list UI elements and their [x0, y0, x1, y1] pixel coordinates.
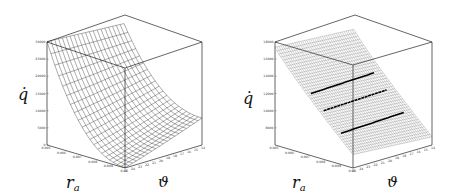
svg-text:14000: 14000: [263, 74, 273, 78]
right-bounding-box: [275, 15, 432, 168]
svg-text:20000: 20000: [35, 74, 45, 78]
left-plot: 050001000015000200002500030000 0.0050.00…: [18, 15, 205, 193]
svg-text:0.009: 0.009: [104, 164, 113, 168]
svg-text:12000: 12000: [263, 92, 273, 96]
svg-text:30000: 30000: [35, 40, 45, 44]
svg-text:0.005: 0.005: [41, 146, 50, 150]
svg-text:15000: 15000: [35, 92, 45, 96]
svg-text:18000: 18000: [263, 40, 273, 44]
figure: 050001000015000200002500030000 0.0050.00…: [0, 0, 451, 194]
svg-text:15: 15: [194, 148, 198, 152]
svg-text:24: 24: [359, 167, 363, 171]
svg-text:22: 22: [145, 163, 149, 167]
left-surface-mesh: [47, 24, 202, 168]
svg-text:10000: 10000: [35, 109, 45, 113]
right-surface-mesh: [275, 29, 432, 154]
right-plot: 80001000012000140001600018000 0.0050.006…: [243, 15, 435, 193]
svg-text:19: 19: [395, 156, 399, 160]
svg-text:21: 21: [152, 161, 156, 165]
svg-text:14: 14: [201, 146, 205, 150]
svg-text:0.005: 0.005: [269, 146, 278, 150]
left-z-label: q̇: [18, 85, 28, 104]
svg-text:20: 20: [159, 159, 163, 163]
svg-text:10000: 10000: [263, 109, 273, 113]
svg-text:24: 24: [131, 167, 135, 171]
svg-text:0.007: 0.007: [301, 155, 310, 159]
svg-text:14: 14: [431, 146, 435, 150]
svg-text:20: 20: [388, 159, 392, 163]
svg-text:25: 25: [124, 169, 128, 173]
svg-text:22: 22: [374, 163, 378, 167]
right-z-label: q̇: [243, 89, 253, 108]
left-bounding-box: [47, 15, 202, 168]
svg-text:0.006: 0.006: [285, 151, 294, 155]
svg-text:17: 17: [409, 152, 413, 156]
right-ra-ticks: 0.0050.0060.0070.0080.0090.01: [269, 146, 355, 173]
left-ra-label: ra: [66, 173, 80, 193]
svg-text:0.007: 0.007: [73, 155, 82, 159]
svg-text:18: 18: [173, 154, 177, 158]
svg-text:19: 19: [166, 156, 170, 160]
right-ra-label: ra: [292, 173, 306, 193]
svg-text:25000: 25000: [35, 57, 45, 61]
svg-text:5000: 5000: [37, 126, 45, 130]
svg-text:15: 15: [424, 148, 428, 152]
svg-text:16000: 16000: [263, 57, 273, 61]
svg-text:0.009: 0.009: [332, 164, 341, 168]
svg-text:8000: 8000: [265, 126, 273, 130]
svg-text:0.008: 0.008: [88, 160, 97, 164]
svg-text:18: 18: [402, 154, 406, 158]
svg-text:21: 21: [381, 161, 385, 165]
svg-text:25: 25: [352, 169, 356, 173]
svg-text:23: 23: [138, 165, 142, 169]
svg-text:17: 17: [180, 152, 184, 156]
left-theta-ticks: 252423222120191817161514: [124, 146, 205, 173]
svg-text:23: 23: [366, 165, 370, 169]
right-z-ticks: 80001000012000140001600018000: [263, 40, 276, 130]
svg-text:16: 16: [187, 150, 191, 154]
left-ra-ticks: 0.0050.0060.0070.0080.0090.01: [41, 146, 127, 173]
left-theta-label: ϑ: [158, 173, 169, 191]
svg-text:0.006: 0.006: [57, 151, 66, 155]
svg-text:0.008: 0.008: [316, 160, 325, 164]
right-theta-ticks: 252423222120191817161514: [352, 146, 435, 173]
right-theta-label: ϑ: [387, 173, 398, 191]
svg-text:16: 16: [417, 150, 421, 154]
left-z-ticks: 050001000015000200002500030000: [35, 40, 48, 147]
